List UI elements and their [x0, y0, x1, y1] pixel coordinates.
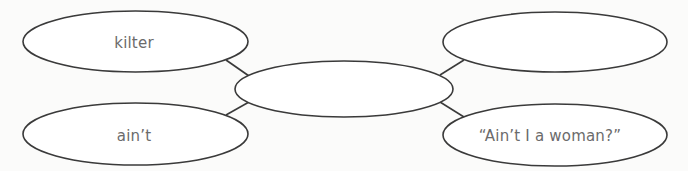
connector-bottom-right: [440, 102, 464, 117]
concept-web-diagram: [0, 0, 688, 171]
connector-top-right: [440, 60, 464, 75]
node-bottom-right-label: “Ain’t I a woman?”: [479, 127, 621, 145]
node-top-right-ellipse[interactable]: [443, 12, 667, 72]
connector-bottom-left: [226, 102, 249, 115]
node-top-left-label: kilter: [114, 34, 154, 52]
center-node-ellipse[interactable]: [235, 61, 453, 117]
connector-top-left: [226, 60, 249, 76]
node-bottom-left-label: ain’t: [117, 127, 152, 145]
